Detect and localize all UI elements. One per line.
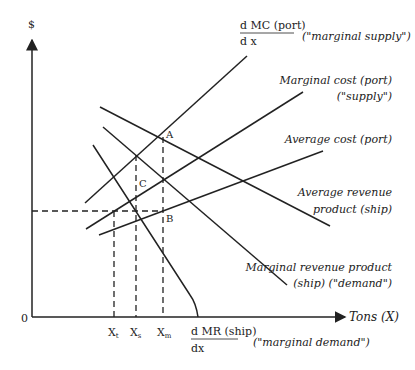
arp-label-line1: Average revenue (297, 186, 393, 199)
economics-diagram: $ 0 Tons (X) Xt Xs Xm A B C d MC (port) … (0, 0, 415, 370)
dmc-label-den: d x (240, 35, 258, 48)
mc-label-line1: Marginal cost (port) (278, 74, 392, 87)
tick-xm: Xm (157, 326, 172, 340)
dmc-label-num: d MC (port) (240, 19, 306, 32)
point-c-label: C (139, 178, 147, 189)
mrp-label-line1: Marginal revenue product (244, 261, 392, 274)
mc-curve (86, 92, 303, 229)
dmc-label-note: ("marginal supply") (302, 30, 411, 43)
y-axis-label: $ (28, 18, 35, 31)
point-b-label: B (166, 213, 173, 224)
ac-label: Average cost (port) (284, 133, 392, 146)
dmr-label-num: d MR (ship) (191, 325, 256, 338)
dmr-label-note: ("marginal demand") (253, 336, 370, 349)
mc-label-line2: ("supply") (337, 90, 392, 103)
tick-xs: Xs (130, 326, 142, 340)
x-axis-label: Tons (X) (349, 310, 399, 324)
origin-label: 0 (21, 312, 28, 325)
tick-xt: Xt (108, 326, 119, 340)
arp-label-line2: product (ship) (313, 203, 392, 216)
mrp-label-line2: (ship) ("demand") (293, 277, 392, 290)
point-a-label: A (165, 129, 174, 140)
dmr-label-den: dx (191, 342, 205, 355)
